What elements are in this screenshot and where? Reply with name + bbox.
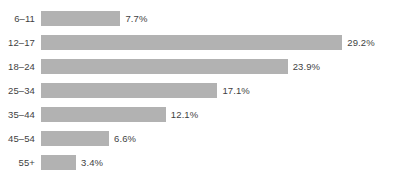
chart-row: 55+ 3.4% — [0, 155, 393, 170]
chart-row: 6–11 7.7% — [0, 11, 393, 26]
bar-value-label: 6.6% — [109, 131, 136, 146]
bar — [41, 83, 217, 98]
bar-value-label: 17.1% — [217, 83, 249, 98]
category-label: 45–54 — [0, 131, 41, 146]
chart-row: 12–17 29.2% — [0, 35, 393, 50]
category-label: 35–44 — [0, 107, 41, 122]
bar-track: 7.7% — [41, 11, 393, 26]
bar — [41, 11, 120, 26]
chart-row: 45–54 6.6% — [0, 131, 393, 146]
bar-value-label: 3.4% — [76, 155, 103, 170]
bar-track: 23.9% — [41, 59, 393, 74]
bar — [41, 59, 288, 74]
bar-value-label: 12.1% — [166, 107, 198, 122]
category-label: 55+ — [0, 155, 41, 170]
bar-value-label: 7.7% — [120, 11, 147, 26]
bar-track: 6.6% — [41, 131, 393, 146]
category-label: 12–17 — [0, 35, 41, 50]
bar — [41, 35, 342, 50]
bar-value-label: 23.9% — [288, 59, 320, 74]
bar-track: 17.1% — [41, 83, 393, 98]
chart-row: 25–34 17.1% — [0, 83, 393, 98]
bar-track: 12.1% — [41, 107, 393, 122]
category-label: 6–11 — [0, 11, 41, 26]
bar-track: 29.2% — [41, 35, 393, 50]
bar-value-label: 29.2% — [342, 35, 374, 50]
chart-row: 35–44 12.1% — [0, 107, 393, 122]
bar — [41, 155, 76, 170]
category-label: 25–34 — [0, 83, 41, 98]
chart-row: 18–24 23.9% — [0, 59, 393, 74]
bar — [41, 131, 109, 146]
category-label: 18–24 — [0, 59, 41, 74]
horizontal-bar-chart: 6–11 7.7% 12–17 29.2% 18–24 23.9% 25–34 … — [0, 0, 393, 185]
bar-track: 3.4% — [41, 155, 393, 170]
bar — [41, 107, 166, 122]
